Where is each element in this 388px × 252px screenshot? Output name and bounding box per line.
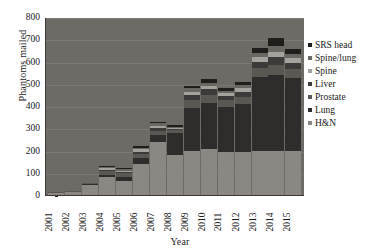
bar-segment[interactable] [235, 104, 251, 152]
bar-stack[interactable] [150, 18, 166, 195]
y-tick-label: 300 [26, 125, 40, 135]
chart-legend: SRS headSpine/lungSpineLiverProstateLung… [308, 38, 388, 129]
bar-stack[interactable] [48, 18, 64, 195]
bar-segment[interactable] [252, 62, 268, 69]
legend-item[interactable]: Lung [308, 103, 388, 116]
bar-segment[interactable] [252, 77, 268, 150]
legend-label: Prostate [315, 92, 346, 102]
bar-segment[interactable] [201, 95, 217, 103]
legend-swatch-icon [308, 95, 312, 99]
bar-stack[interactable] [285, 18, 301, 195]
chart-figure: Phantoms mailed 010020030040050060070080… [0, 0, 388, 252]
bar-segment[interactable] [268, 38, 284, 46]
x-tick-label: 2015 [282, 213, 306, 232]
plot-area [45, 18, 304, 196]
y-tick-label: 400 [26, 102, 40, 112]
y-tick-label: 700 [26, 36, 40, 46]
bar-segment[interactable] [201, 103, 217, 150]
bar-segment[interactable] [235, 97, 251, 104]
legend-item[interactable]: Spine [308, 64, 388, 77]
x-axis-title: Year [56, 236, 304, 247]
bar-series-group [46, 18, 304, 195]
bar-stack[interactable] [167, 18, 183, 195]
bar-segment[interactable] [99, 177, 115, 195]
bar-segment[interactable] [268, 151, 284, 196]
legend-item[interactable]: SRS head [308, 38, 388, 51]
bar-stack[interactable] [252, 18, 268, 195]
legend-label: H&N [315, 118, 336, 128]
bar-segment[interactable] [133, 164, 149, 195]
y-tick-mark [55, 196, 58, 197]
bar-segment[interactable] [65, 192, 81, 195]
bar-stack[interactable] [184, 18, 200, 195]
legend-label: Spine [315, 66, 337, 76]
bar-stack[interactable] [99, 18, 115, 195]
bar-segment[interactable] [252, 68, 268, 77]
y-axis-tick-labels: 0100200300400500600700800 [14, 12, 40, 202]
legend-label: Liver [315, 79, 336, 89]
bar-stack[interactable] [218, 18, 234, 195]
bar-segment[interactable] [150, 142, 166, 195]
bar-stack[interactable] [268, 18, 284, 195]
bar-segment[interactable] [218, 107, 234, 152]
legend-item[interactable]: Liver [308, 77, 388, 90]
legend-item[interactable]: H&N [308, 116, 388, 129]
bar-segment[interactable] [201, 149, 217, 195]
legend-swatch-icon [308, 121, 312, 125]
bar-segment[interactable] [268, 65, 284, 75]
legend-label: SRS head [315, 40, 352, 50]
y-tick-label: 500 [26, 80, 40, 90]
bar-segment[interactable] [285, 78, 301, 150]
x-axis-tick-labels: 2001200220032004200520062007200820092010… [45, 198, 304, 234]
x-tick-wrap: 2015 [286, 198, 302, 234]
bar-segment[interactable] [184, 108, 200, 150]
y-tick-label: 800 [26, 13, 40, 23]
legend-label: Spine/lung [315, 53, 356, 63]
bar-segment[interactable] [218, 152, 234, 195]
bar-segment[interactable] [167, 155, 183, 195]
bar-segment[interactable] [268, 57, 284, 65]
y-tick-label: 0 [35, 191, 40, 201]
y-tick-label: 100 [26, 169, 40, 179]
bar-stack[interactable] [201, 18, 217, 195]
bar-segment[interactable] [285, 69, 301, 78]
bar-segment[interactable] [235, 152, 251, 195]
bar-segment[interactable] [252, 151, 268, 196]
legend-item[interactable]: Spine/lung [308, 51, 388, 64]
bar-segment[interactable] [116, 181, 132, 195]
bar-stack[interactable] [116, 18, 132, 195]
bar-segment[interactable] [285, 63, 301, 70]
bar-stack[interactable] [235, 18, 251, 195]
legend-swatch-icon [308, 108, 312, 112]
y-tick-label: 600 [26, 58, 40, 68]
y-tick-label: 200 [26, 147, 40, 157]
bar-segment[interactable] [82, 185, 98, 195]
legend-swatch-icon [308, 56, 312, 60]
bar-segment[interactable] [184, 151, 200, 196]
bar-stack[interactable] [133, 18, 149, 195]
bar-segment[interactable] [150, 135, 166, 142]
bar-stack[interactable] [82, 18, 98, 195]
bar-segment[interactable] [268, 75, 284, 151]
legend-swatch-icon [308, 43, 312, 47]
legend-label: Lung [315, 105, 335, 115]
bar-segment[interactable] [285, 151, 301, 196]
bar-stack[interactable] [65, 18, 81, 195]
bar-segment[interactable] [184, 100, 200, 108]
bar-segment[interactable] [218, 100, 234, 107]
legend-swatch-icon [308, 82, 312, 86]
bar-segment[interactable] [167, 133, 183, 155]
legend-swatch-icon [308, 69, 312, 73]
legend-item[interactable]: Prostate [308, 90, 388, 103]
bar-segment[interactable] [48, 193, 64, 195]
